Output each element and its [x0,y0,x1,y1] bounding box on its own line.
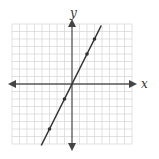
y-axis-label: y [70,7,77,19]
line-series [41,26,101,146]
data-point [48,127,52,131]
y-axis-up-arrow-icon [68,19,76,27]
y-axis-down-arrow-icon [68,143,76,151]
data-point [63,97,67,101]
data-point [93,37,97,41]
x-axis-label: x [141,78,148,90]
x-axis-right-arrow-icon [129,80,137,88]
coordinate-plane [0,0,159,159]
data-point [85,52,89,56]
